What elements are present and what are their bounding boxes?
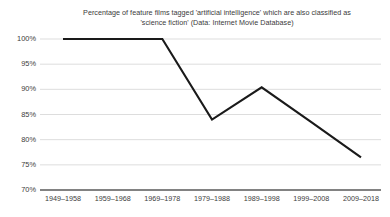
y-tick-label: 75% [0,161,36,169]
plot-area [40,39,381,190]
plot-svg [40,39,381,190]
x-tick-label: 1949–1958 [45,194,81,203]
x-tick-label: 1999–2008 [293,194,329,203]
y-tick-label: 70% [0,186,36,194]
y-tick-label: 95% [0,60,36,68]
y-tick-label: 90% [0,85,36,93]
x-tick-label: 1979–1988 [194,194,230,203]
chart-title: Percentage of feature films tagged 'arti… [52,8,382,29]
x-tick-label: 1959–1968 [95,194,131,203]
chart-title-line-2: 'science fiction' (Data: Internet Movie … [52,18,382,28]
y-tick-label: 85% [0,111,36,119]
x-axis-tick-labels: 1949–19581959–19681969–19781979–19881989… [40,194,381,210]
x-tick-label: 1989–1998 [244,194,280,203]
chart-title-line-1: Percentage of feature films tagged 'arti… [52,8,382,18]
y-axis-tick-labels: 100%95%90%85%80%75%70% [0,39,36,190]
y-tick-label: 100% [0,35,36,43]
line-chart: Percentage of feature films tagged 'arti… [0,0,390,217]
x-tick-label: 2009–2018 [343,194,379,203]
y-tick-label: 80% [0,136,36,144]
x-tick-label: 1969–1978 [144,194,180,203]
gridlines [40,39,381,165]
